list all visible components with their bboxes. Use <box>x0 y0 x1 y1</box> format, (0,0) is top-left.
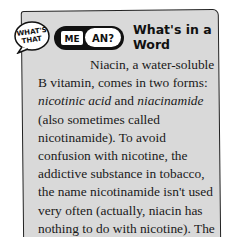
whats-that-mean-logo-icon: WHAT'S THAT ME AN? <box>14 20 126 54</box>
term-niacinamide: niacinamide <box>137 93 203 108</box>
term-nicotinic-acid: nicotinic acid <box>38 93 111 108</box>
box-title: What's in a Word <box>133 22 225 52</box>
svg-text:AN?: AN? <box>92 33 114 44</box>
box-paragraph: Niacin, a water-soluble B vitamin, comes… <box>38 56 222 237</box>
svg-text:ME: ME <box>64 34 79 44</box>
